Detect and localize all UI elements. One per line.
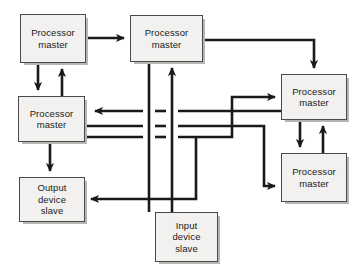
node-processor-master-top-middle[interactable]: Processor master xyxy=(130,15,203,62)
node-label: Processor master xyxy=(31,27,75,50)
node-label: Processor master xyxy=(292,166,336,189)
node-label: Input device slave xyxy=(172,220,200,255)
node-processor-master-lower-right[interactable]: Processor master xyxy=(281,153,347,202)
node-label: Output device slave xyxy=(37,182,66,217)
wire-bus-to-output xyxy=(91,137,196,199)
wire-left-out-to-lower-right-seg3 xyxy=(178,126,275,186)
node-processor-master-top-left[interactable]: Processor master xyxy=(20,14,86,63)
node-input-device-slave[interactable]: Input device slave xyxy=(155,212,218,262)
node-processor-master-upper-right[interactable]: Processor master xyxy=(281,74,347,120)
node-label: Processor master xyxy=(30,108,74,131)
bus-interconnection-diagram: Processor master Processor master Proces… xyxy=(0,0,364,276)
node-processor-master-left[interactable]: Processor master xyxy=(18,96,85,142)
wire-left-out-to-upper-right-seg3 xyxy=(178,97,275,137)
node-output-device-slave[interactable]: Output device slave xyxy=(19,177,85,222)
node-label: Processor master xyxy=(145,27,189,50)
wire-top-middle-to-upper-right xyxy=(203,40,314,68)
node-label: Processor master xyxy=(292,86,336,109)
